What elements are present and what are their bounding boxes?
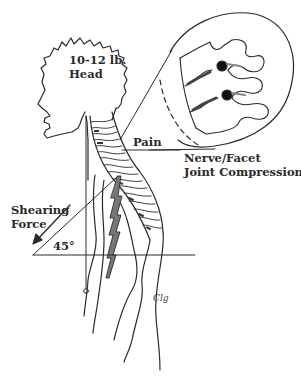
artist-signature: Clg xyxy=(153,293,169,303)
shearing-force-label: Shearing Force xyxy=(11,203,69,231)
compression-line1: Nerve/Facet xyxy=(184,151,301,165)
callout-line-bottom xyxy=(150,149,215,150)
nerve-root-1 xyxy=(217,61,227,71)
shear-line2: Force xyxy=(11,217,69,231)
pain-label: Pain xyxy=(133,135,162,149)
compressed-nerve-2 xyxy=(193,98,216,110)
head-weight-line1: 10-12 lb. xyxy=(69,53,126,67)
posture-diagram xyxy=(0,0,301,381)
inset-vertebrae xyxy=(180,39,268,134)
inset-circle xyxy=(170,13,293,147)
compressed-nerve-1 xyxy=(188,72,210,84)
head-weight-line2: Head xyxy=(69,67,126,81)
head-weight-label: 10-12 lb. Head xyxy=(69,53,126,81)
dashed-arc xyxy=(160,80,200,146)
shear-line1: Shearing xyxy=(11,203,69,217)
compression-label: Nerve/Facet Joint Compression xyxy=(184,151,301,179)
front-torso xyxy=(124,240,150,362)
arm-inner xyxy=(93,180,104,333)
angle-label: 45° xyxy=(53,239,75,253)
compression-line2: Joint Compression xyxy=(184,165,301,179)
pain-lightning-icon xyxy=(106,176,122,278)
nerve-root-2 xyxy=(222,90,232,100)
callout-line-top xyxy=(120,50,172,140)
